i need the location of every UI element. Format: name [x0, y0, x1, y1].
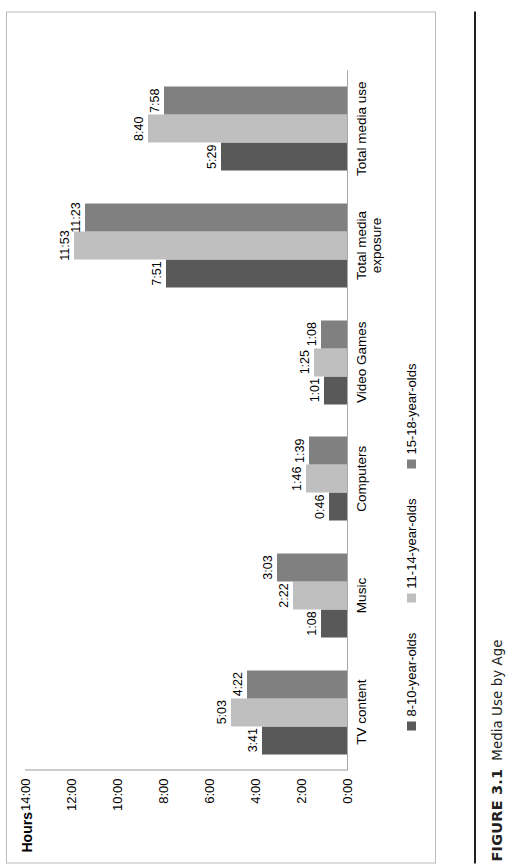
- bar-value-label: 8:40: [132, 116, 146, 140]
- bar-value-label: 7:51: [150, 261, 164, 285]
- bar-fill: [221, 142, 347, 170]
- legend-item[interactable]: 15-18-year-olds: [404, 363, 419, 468]
- bar-value-label: 5:03: [215, 700, 229, 724]
- y-tick-label: 8:00: [156, 778, 171, 803]
- legend-swatch-icon: [407, 593, 416, 602]
- category-label: Computers: [351, 420, 395, 537]
- bar-fill: [247, 670, 347, 698]
- bar-fill: [74, 231, 347, 259]
- category-label: Total media use: [351, 70, 395, 187]
- bar-value-label: 2:22: [277, 583, 291, 607]
- legend-swatch-icon: [407, 459, 416, 468]
- category-label: Music: [351, 537, 395, 654]
- bar-value-label: 11:53: [58, 230, 72, 260]
- legend: 8-10-year-olds11-14-year-olds15-18-year-…: [399, 70, 423, 770]
- bar-value-label: 11:23: [69, 202, 83, 232]
- bar-value-label: 1:46: [290, 466, 304, 490]
- y-tick-label: 2:00: [294, 778, 309, 803]
- category-label: Video Games: [351, 303, 395, 420]
- bar-value-label: 1:01: [308, 377, 322, 401]
- y-tick-label: 6:00: [202, 778, 217, 803]
- bar-fill: [321, 609, 347, 637]
- bar-fill: [166, 259, 347, 287]
- bar-fill: [85, 203, 347, 231]
- bar-value-label: 1:25: [298, 349, 312, 373]
- bar-fill: [164, 86, 347, 114]
- bar-group: 1:011:251:08: [25, 303, 347, 420]
- bar-fill: [148, 114, 347, 142]
- figure-caption-text: Media Use by Age: [489, 639, 505, 760]
- bar-value-label: 3:03: [261, 555, 275, 579]
- y-tick-label: 0:00: [340, 778, 355, 803]
- y-tick-label: 10:00: [110, 778, 125, 811]
- figure-stage: Hours 14:0012:0010:008:006:004:002:000:0…: [0, 0, 520, 867]
- bar-fill: [231, 698, 347, 726]
- figure-caption: FIGURE 3.1 Media Use by Age: [474, 0, 520, 867]
- bar-value-label: 3:41: [246, 728, 260, 752]
- bar-value-label: 4:22: [231, 672, 245, 696]
- category-label: TV content: [351, 653, 395, 770]
- y-tick-label: 12:00: [64, 778, 79, 811]
- legend-label: 15-18-year-olds: [404, 363, 419, 454]
- bar-value-label: 1:39: [293, 438, 307, 462]
- category-labels: TV contentMusicComputersVideo GamesTotal…: [351, 70, 395, 770]
- category-axis-line: [347, 70, 348, 770]
- bar-fill: [314, 348, 347, 376]
- bar-group: 1:082:223:03: [25, 537, 347, 654]
- legend-label: 11-14-year-olds: [404, 498, 419, 588]
- legend-swatch-icon: [407, 721, 416, 730]
- bar-group: 7:5111:5311:23: [25, 187, 347, 304]
- bar-value-label: 1:08: [305, 611, 319, 635]
- bar-fill: [329, 492, 347, 520]
- bar-value-label: 0:46: [313, 494, 327, 518]
- bar-fill: [321, 320, 347, 348]
- bar-fill: [324, 376, 347, 404]
- bar-fill: [277, 553, 347, 581]
- category-label: Total media exposure: [351, 187, 395, 304]
- bar-groups: 3:415:034:221:082:223:030:461:461:391:01…: [25, 70, 347, 770]
- chart-frame: Hours 14:0012:0010:008:006:004:002:000:0…: [6, 11, 436, 863]
- bar-fill: [306, 464, 347, 492]
- bar-fill: [293, 581, 347, 609]
- bar-group: 5:298:407:58: [25, 70, 347, 187]
- bar-fill: [262, 726, 347, 754]
- figure-number: FIGURE 3.1: [489, 768, 505, 861]
- legend-item[interactable]: 8-10-year-olds: [404, 632, 419, 730]
- y-tick-label: 4:00: [248, 778, 263, 803]
- y-tick-label: 14:00: [18, 778, 33, 811]
- legend-item[interactable]: 11-14-year-olds: [404, 498, 419, 602]
- bar-fill: [309, 436, 347, 464]
- bar-value-label: 7:58: [148, 88, 162, 112]
- bar-value-label: 5:29: [205, 144, 219, 168]
- bar-value-label: 1:08: [305, 321, 319, 345]
- y-axis-ticks: 14:0012:0010:008:006:004:002:000:00: [7, 770, 347, 862]
- legend-label: 8-10-year-olds: [404, 632, 419, 716]
- bar-group: 0:461:461:39: [25, 420, 347, 537]
- bar-group: 3:415:034:22: [25, 653, 347, 770]
